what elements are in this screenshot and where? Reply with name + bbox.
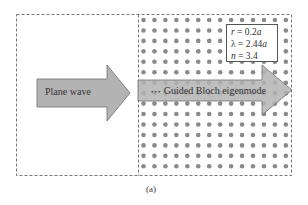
lattice-rod xyxy=(229,143,234,148)
lattice-rod xyxy=(185,143,190,148)
lattice-rod xyxy=(207,164,212,169)
lattice-rod xyxy=(273,164,278,169)
lattice-rod xyxy=(185,49,190,54)
param-lambda: λ = 2.44a xyxy=(231,38,273,50)
lattice-rod xyxy=(284,101,289,106)
lattice-rod xyxy=(185,122,190,127)
lattice-rod xyxy=(218,122,223,127)
lattice-rod xyxy=(207,154,212,159)
lattice-rod xyxy=(273,122,278,127)
lattice-rod xyxy=(240,143,245,148)
lattice-rod xyxy=(141,101,146,106)
lattice-rod xyxy=(163,28,168,33)
lattice-rod xyxy=(273,154,278,159)
lattice-rod xyxy=(152,49,157,54)
lattice-rod xyxy=(240,70,245,75)
lattice-rod xyxy=(174,18,179,23)
lattice-rod xyxy=(284,133,289,138)
lattice-rod xyxy=(152,122,157,127)
lattice-rod xyxy=(141,49,146,54)
lattice-rod xyxy=(174,154,179,159)
lattice-rod xyxy=(152,60,157,65)
lattice-rod xyxy=(152,28,157,33)
lattice-rod xyxy=(218,101,223,106)
lattice-rod xyxy=(284,60,289,65)
lattice-rod xyxy=(152,143,157,148)
lattice-rod xyxy=(185,18,190,23)
lattice-rod xyxy=(174,39,179,44)
lattice-rod xyxy=(240,164,245,169)
lattice-rod xyxy=(207,28,212,33)
lattice-rod xyxy=(284,143,289,148)
lattice-rod xyxy=(284,70,289,75)
lattice-rod xyxy=(207,133,212,138)
lattice-rod xyxy=(273,133,278,138)
lattice-rod xyxy=(196,60,201,65)
lattice-rod xyxy=(218,164,223,169)
lattice-rod xyxy=(207,143,212,148)
lattice-rod xyxy=(174,133,179,138)
lattice-rod xyxy=(174,112,179,117)
lattice-rod xyxy=(196,70,201,75)
lattice-rod xyxy=(163,39,168,44)
lattice-rod xyxy=(218,70,223,75)
lattice-rod xyxy=(141,28,146,33)
lattice-rod xyxy=(152,70,157,75)
lattice-rod xyxy=(185,154,190,159)
lattice-rod xyxy=(251,133,256,138)
lattice-rod xyxy=(240,133,245,138)
lattice-rod xyxy=(229,122,234,127)
lattice-rod xyxy=(196,154,201,159)
lattice-rod xyxy=(163,143,168,148)
lattice-rod xyxy=(152,18,157,23)
lattice-rod xyxy=(251,164,256,169)
lattice-rod xyxy=(218,28,223,33)
lattice-rod xyxy=(196,164,201,169)
lattice-rod xyxy=(218,154,223,159)
lattice-rod xyxy=(196,49,201,54)
lattice-rod xyxy=(218,133,223,138)
lattice-rod xyxy=(163,70,168,75)
lattice-rod xyxy=(284,18,289,23)
lattice-rod xyxy=(141,18,146,23)
lattice-rod xyxy=(284,154,289,159)
lattice-rod xyxy=(185,39,190,44)
lattice-rod xyxy=(196,133,201,138)
lattice-rod xyxy=(207,70,212,75)
lattice-rod xyxy=(207,60,212,65)
lattice-rod xyxy=(273,70,278,75)
lattice-rod xyxy=(174,49,179,54)
lattice-rod xyxy=(251,70,256,75)
lattice-rod xyxy=(273,143,278,148)
lattice-rod xyxy=(207,122,212,127)
lattice-rod xyxy=(185,101,190,106)
panel-caption: (a) xyxy=(146,184,156,194)
lattice-rod xyxy=(141,112,146,117)
lattice-rod xyxy=(240,101,245,106)
lattice-rod xyxy=(262,133,267,138)
lattice-rod xyxy=(251,143,256,148)
param-n: n = 3.4 xyxy=(231,50,273,62)
lattice-rod xyxy=(207,18,212,23)
lattice-rod xyxy=(284,39,289,44)
lattice-rod xyxy=(163,60,168,65)
lattice-rod xyxy=(273,112,278,117)
lattice-rod xyxy=(174,122,179,127)
lattice-rod xyxy=(152,154,157,159)
lattice-rod xyxy=(229,154,234,159)
lattice-rod xyxy=(141,154,146,159)
guided-mode-text: Guided Bloch eigenmode xyxy=(164,85,266,96)
lattice-rod xyxy=(163,154,168,159)
lattice-rod xyxy=(141,39,146,44)
lattice-rod xyxy=(251,122,256,127)
lattice-rod xyxy=(174,28,179,33)
lattice-rod xyxy=(218,143,223,148)
lattice-rod xyxy=(218,112,223,117)
guided-mode-label: ••• Guided Bloch eigenmode xyxy=(151,85,266,96)
lead-dots: ••• xyxy=(151,88,161,96)
lattice-rod xyxy=(251,154,256,159)
lattice-rod xyxy=(284,112,289,117)
lattice-rod xyxy=(229,18,234,23)
lattice-rod xyxy=(207,39,212,44)
lattice-rod xyxy=(141,60,146,65)
